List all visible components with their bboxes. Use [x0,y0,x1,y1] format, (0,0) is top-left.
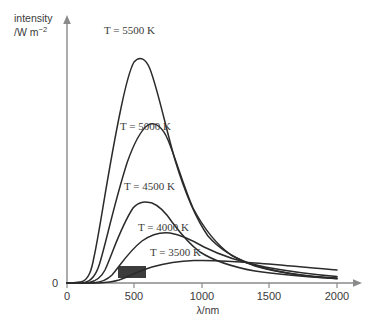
y-axis [63,15,71,283]
x-axis [67,279,362,288]
y-axis-label-units: /W m [14,26,39,38]
series-label-5000k: T = 5000 K [120,120,171,132]
blackbody-radiation-chart: 0 500 1000 1500 2000 0 intensity /W m−2 … [0,0,382,332]
curve-4500k [67,202,337,283]
x-axis-arrowhead [353,279,362,287]
x-ticklabel-0: 0 [64,290,70,302]
series-label-4500k: T = 4500 K [124,180,175,192]
y-axis-label-line2: /W m−2 [14,25,47,38]
visible-spectrum-band [118,266,146,278]
x-ticklabel-1000: 1000 [190,290,214,302]
y-axis-label-exponent: −2 [39,25,48,34]
x-ticklabel-1500: 1500 [257,290,281,302]
x-ticklabel-2000: 2000 [325,290,349,302]
curve-5000k [67,124,337,283]
series-label-5500k: T = 5500 K [104,24,155,36]
x-axis-label: λ/nm [197,304,220,316]
chart-canvas: 0 500 1000 1500 2000 0 intensity /W m−2 … [0,0,382,332]
y-axis-arrowhead [63,15,71,24]
curve-5500k [67,58,337,283]
x-ticklabel-500: 500 [125,290,143,302]
y-axis-label-line1: intensity [14,12,53,24]
series-label-4000k: T = 4000 K [138,221,189,233]
series-label-3500k: T = 3500 K [150,246,201,258]
y-ticklabel-0: 0 [52,277,58,289]
